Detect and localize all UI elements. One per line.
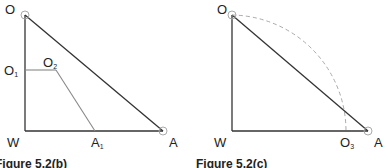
- figure-c-drawing: [228, 11, 372, 135]
- label-O2: O2: [43, 56, 57, 70]
- label-A1-main: A: [91, 135, 100, 150]
- figure-b-drawing: [21, 11, 167, 135]
- label-O3-sub: 3: [350, 143, 354, 150]
- label-O: O: [217, 3, 227, 16]
- label-O1: O1: [4, 64, 18, 78]
- label-O3: O3: [340, 136, 354, 150]
- label-O2-sub: 2: [53, 63, 57, 70]
- diagram-canvas: [0, 0, 388, 168]
- label-O1-sub: 1: [14, 71, 18, 78]
- label-W: W: [214, 136, 226, 149]
- label-A1: A1: [91, 136, 104, 150]
- caption-figure-b: Figure 5.2(b): [0, 157, 67, 168]
- dashed-arc-O-O3: [232, 15, 346, 131]
- label-A1-sub: 1: [100, 143, 104, 150]
- label-W: W: [7, 136, 19, 149]
- label-O3-main: O: [340, 135, 350, 150]
- line-O-A: [232, 15, 368, 131]
- line-O-A: [25, 15, 163, 131]
- caption-figure-c: Figure 5.2(c): [196, 157, 267, 168]
- label-A: A: [374, 136, 383, 149]
- label-O2-main: O: [43, 55, 53, 70]
- line-O2-A1: [56, 70, 95, 131]
- label-A: A: [169, 136, 178, 149]
- label-O1-main: O: [4, 63, 14, 78]
- label-O: O: [5, 3, 15, 16]
